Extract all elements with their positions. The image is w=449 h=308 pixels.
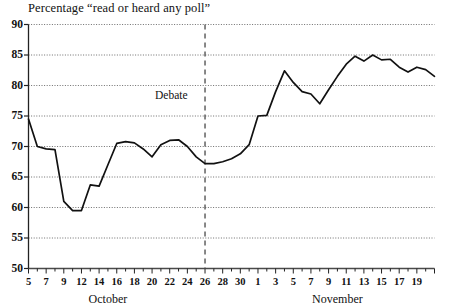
chart-figure: Percentage “read or heard any poll” 5055…	[0, 0, 449, 308]
x-axis-tick-19: 19	[405, 277, 429, 288]
y-axis-tick-60: 60	[1, 202, 23, 214]
y-axis-tick-55: 55	[1, 232, 23, 244]
y-axis-tick-65: 65	[1, 171, 23, 183]
y-axis-tick-85: 85	[1, 49, 23, 61]
y-axis-tick-75: 75	[1, 110, 23, 122]
y-axis-tick-80: 80	[1, 80, 23, 92]
y-axis-tick-50: 50	[1, 263, 23, 275]
y-axis-tick-90: 90	[1, 19, 23, 31]
x-axis-group-label-november: November	[297, 293, 377, 305]
debate-annotation-label: Debate	[155, 90, 188, 102]
y-axis-tick-70: 70	[1, 141, 23, 153]
x-axis-group-label-october: October	[68, 293, 148, 305]
plot-area	[0, 0, 449, 308]
